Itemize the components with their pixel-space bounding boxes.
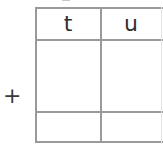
grid-bottom-border bbox=[35, 141, 163, 143]
answer-tens-cell[interactable] bbox=[36, 112, 100, 141]
column-header-units: u bbox=[101, 9, 161, 39]
plus-operator: + bbox=[3, 84, 21, 108]
cropped-mark bbox=[62, 0, 70, 1]
addend-tens-cell[interactable] bbox=[36, 40, 100, 111]
grid-right-edge bbox=[161, 7, 162, 143]
answer-units-cell[interactable] bbox=[102, 112, 161, 141]
addend-units-cell[interactable] bbox=[102, 40, 161, 111]
column-header-tens: t bbox=[36, 9, 100, 39]
place-value-grid: t u bbox=[35, 7, 163, 143]
